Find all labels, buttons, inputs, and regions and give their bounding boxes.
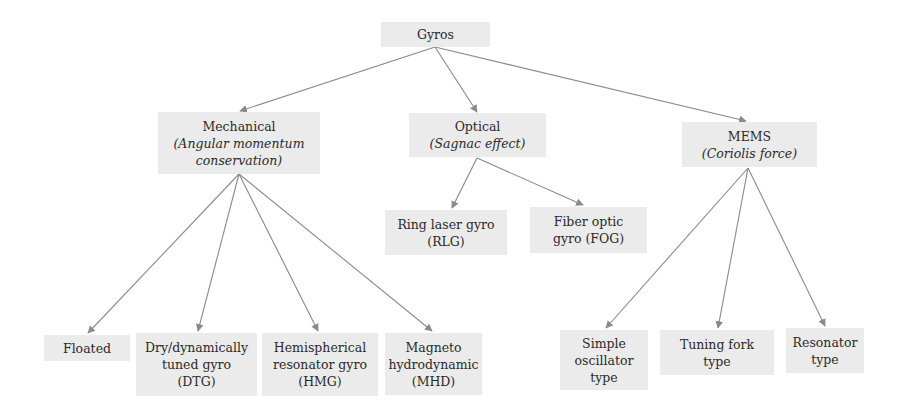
node-principle-line: (Angular momentum — [173, 135, 304, 152]
edge-gyros-optical — [435, 47, 477, 112]
node-line: (RLG) — [427, 233, 464, 250]
edge-gyros-mems — [435, 47, 746, 121]
node-line: (DTG) — [177, 373, 215, 390]
node-line: Fiber optic — [554, 213, 624, 230]
edge-mems-tuning — [718, 168, 748, 328]
node-line: Ring laser gyro — [397, 216, 494, 233]
node-line: tuned gyro — [162, 356, 231, 373]
node-mechanical: Mechanical (Angular momentum conservatio… — [158, 112, 320, 174]
edge-mechanical-dtg — [198, 174, 239, 331]
node-principle: (Sagnac effect) — [430, 135, 526, 152]
node-line: (MHD) — [412, 373, 455, 390]
node-mems: MEMS (Coriolis force) — [682, 122, 817, 167]
node-label: Mechanical — [202, 118, 275, 135]
edge-gyros-mechanical — [240, 47, 435, 111]
node-label: Optical — [455, 118, 501, 135]
edge-optical-rlg — [452, 158, 477, 208]
node-line: (HMG) — [298, 373, 341, 390]
node-line: type — [703, 353, 730, 370]
node-line: Resonator — [793, 334, 858, 351]
edge-mechanical-hmg — [239, 174, 318, 331]
node-line: type — [811, 351, 838, 368]
node-principle: (Coriolis force) — [702, 145, 797, 162]
edge-mechanical-floated — [88, 174, 239, 333]
node-floated: Floated — [44, 335, 130, 361]
node-line: resonator gyro — [273, 356, 367, 373]
gyro-taxonomy-diagram: Gyros Mechanical (Angular momentum conse… — [0, 0, 915, 406]
node-dtg: Dry/dynamically tuned gyro (DTG) — [136, 333, 257, 396]
node-line: type — [590, 369, 617, 386]
node-optical: Optical (Sagnac effect) — [409, 113, 546, 157]
node-gyros: Gyros — [381, 22, 490, 47]
node-line: gyro (FOG) — [553, 230, 624, 247]
node-fog: Fiber optic gyro (FOG) — [530, 207, 647, 253]
node-line: Floated — [63, 340, 111, 357]
node-line: Hemispherical — [274, 339, 366, 356]
node-line: Dry/dynamically — [145, 339, 248, 356]
node-line: Simple — [582, 335, 626, 352]
node-line: hydrodynamic — [388, 356, 478, 373]
node-simple-oscillator: Simple oscillator type — [560, 330, 648, 390]
node-hmg: Hemispherical resonator gyro (HMG) — [262, 333, 378, 396]
node-resonator: Resonator type — [786, 328, 864, 373]
node-mhd: Magneto hydrodynamic (MHD) — [385, 333, 482, 395]
node-label: Gyros — [417, 26, 454, 43]
node-line: oscillator — [575, 352, 634, 369]
edge-mems-resonator — [748, 168, 825, 326]
node-line: Magneto — [405, 339, 461, 356]
node-rlg: Ring laser gyro (RLG) — [385, 210, 507, 255]
edge-optical-fog — [477, 158, 583, 205]
node-principle-line: conservation) — [196, 152, 282, 169]
node-label: MEMS — [728, 128, 771, 145]
node-tuning-fork: Tuning fork type — [660, 330, 774, 375]
node-line: Tuning fork — [680, 336, 754, 353]
